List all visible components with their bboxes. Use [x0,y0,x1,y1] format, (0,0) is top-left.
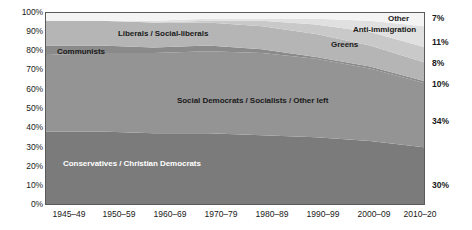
y-axis-tick-60: 60% [26,85,43,94]
y-axis-tick-0: 0% [31,200,43,209]
y-axis-tick-80: 80% [26,46,43,55]
y-axis-tick-50: 50% [26,104,43,113]
y-axis-tick-10: 10% [26,181,43,190]
series-label-greens: Greens [331,40,358,49]
y-axis-tick-100: 100% [22,8,43,17]
y-axis-tick-90: 90% [26,27,43,36]
y-axis-tick-70: 70% [26,65,43,74]
stacked-area-chart: 100% 90% 80% 70% 60% 50% 40% 30% 20% 10%… [0,0,472,230]
series-label-conservatives: Conservatives / Christian Democrats [63,159,201,168]
series-label-other: Other [388,14,409,23]
x-axis-tick-1945-49: 1945–49 [52,209,85,219]
right-axis-value-liberals: 10% [432,80,449,89]
x-axis-tick-2000-09: 2000–09 [357,209,390,219]
right-axis-value-social-democrats: 34% [432,117,449,126]
series-label-anti-immigration: Anti-immigration [353,25,416,34]
x-axis-tick-1960-69: 1960–69 [153,209,186,219]
y-axis-tick-30: 30% [26,143,43,152]
y-axis-tick-40: 40% [26,123,43,132]
series-label-liberals: Liberals / Social-liberals [118,29,208,38]
x-axis-tick-1990-99: 1990–99 [306,209,339,219]
x-axis-tick-1950-59: 1950–59 [102,209,135,219]
y-axis-tick-20: 20% [26,162,43,171]
right-axis-value-anti-immigration: 11% [432,38,449,47]
x-axis-tick-1980-89: 1980–89 [255,209,288,219]
x-axis-tick-1970-79: 1970–79 [204,209,237,219]
plot-area [45,12,425,205]
right-axis-value-greens: 8% [432,59,444,68]
series-label-social-democrats: Social Democrats / Socialists / Other le… [177,96,328,105]
area-series-canvas [46,13,424,204]
right-axis-value-other: 7% [432,14,444,23]
series-label-communists: Communists [57,47,105,56]
right-axis-value-conservatives: 30% [432,181,449,190]
x-axis-tick-2010-20: 2010–20 [403,209,436,219]
